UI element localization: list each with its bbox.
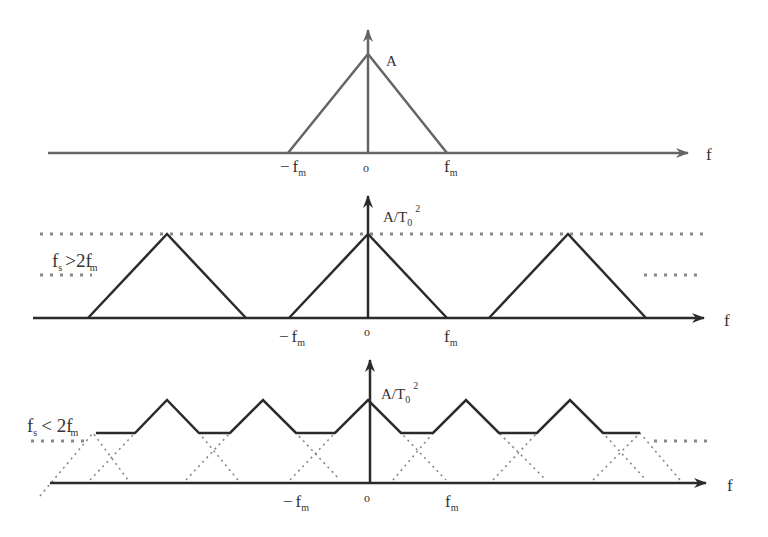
origin-label: o bbox=[364, 491, 370, 505]
neg-fm-label: −fm bbox=[279, 327, 305, 348]
pos-fm-label: fm bbox=[445, 492, 459, 513]
svg-text:fs< 2fm: fs< 2fm bbox=[27, 415, 79, 438]
spectral-replica-right bbox=[489, 234, 646, 318]
svg-text:fm: fm bbox=[445, 492, 459, 513]
neg-fm-label: −fm bbox=[283, 492, 309, 513]
axis-label-f: f bbox=[727, 476, 733, 495]
sampling-condition-label: fs< 2fm bbox=[27, 415, 79, 438]
svg-text:−fm: −fm bbox=[283, 492, 309, 513]
pos-fm-label: fm bbox=[444, 327, 458, 348]
svg-text:A/T02: A/T02 bbox=[383, 203, 420, 228]
svg-text:−fm: −fm bbox=[279, 327, 305, 348]
origin-label: o bbox=[363, 161, 369, 175]
pos-fm-label: fm bbox=[444, 157, 458, 178]
aliased-spectrum-envelope bbox=[96, 400, 640, 433]
sampling-condition-label: fs>2fm bbox=[52, 250, 98, 273]
neg-fm-label: −fm bbox=[280, 157, 306, 178]
svg-text:fm: fm bbox=[444, 327, 458, 348]
spectral-replica-left bbox=[88, 234, 246, 318]
svg-text:fs>2fm: fs>2fm bbox=[52, 250, 98, 273]
axis-label-f: f bbox=[706, 145, 712, 164]
panel-oversampled-spectrum: f o A/T02 fs>2fm −fm fm bbox=[33, 196, 730, 348]
svg-text:−fm: −fm bbox=[280, 157, 306, 178]
panel-original-spectrum: f A o −fm fm bbox=[48, 30, 712, 178]
panel-undersampled-spectrum: f o A/T02 fs< 2fm −fm fm bbox=[27, 360, 733, 513]
peak-label: A/T02 bbox=[381, 380, 418, 405]
axis-label-f: f bbox=[724, 311, 730, 330]
peak-label: A/T02 bbox=[383, 203, 420, 228]
sampling-spectrum-diagram: f A o −fm fm f o A/T02 fs>2fm −fm fm bbox=[0, 0, 768, 537]
origin-label: o bbox=[364, 325, 370, 339]
peak-label: A bbox=[386, 53, 397, 69]
svg-text:A/T02: A/T02 bbox=[381, 380, 418, 405]
svg-text:fm: fm bbox=[444, 157, 458, 178]
